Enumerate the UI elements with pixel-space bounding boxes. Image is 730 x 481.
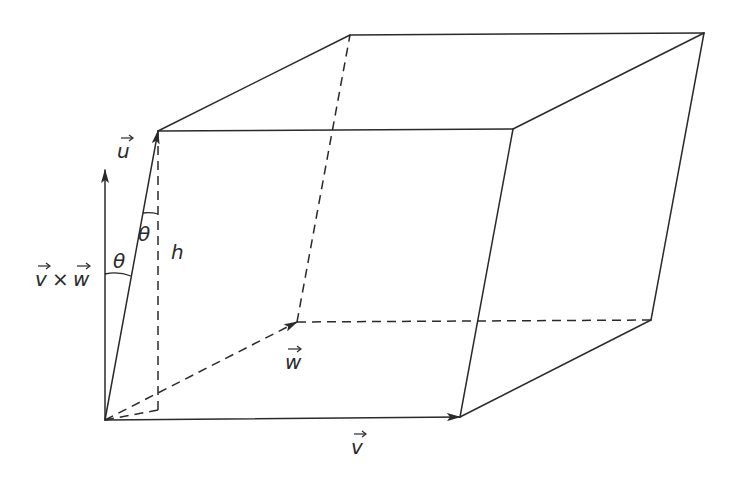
edge-w-vector [105, 322, 297, 420]
edge-top-right [513, 33, 704, 129]
edge-v-vector [105, 417, 460, 420]
label-theta-top: θ [138, 222, 150, 246]
label-cross-w: w [73, 267, 90, 291]
label-h: h [171, 240, 184, 264]
theta-arc-top [143, 213, 158, 214]
edge-back-left [297, 35, 350, 322]
edge-front-right [460, 129, 513, 417]
theta-arc-bottom [105, 273, 131, 276]
edge-bottom-back [297, 320, 651, 322]
label-u: u [117, 139, 130, 163]
edge-top-back [350, 33, 704, 35]
height-foot-line [105, 410, 158, 420]
edge-top-front [158, 129, 513, 131]
edge-u-vector [105, 131, 158, 420]
label-theta-bottom: θ [113, 249, 125, 273]
edge-top-left [158, 35, 350, 131]
labels: u θ h θ v × w w v [35, 135, 366, 459]
label-cross-v: v [35, 267, 48, 291]
label-cross-times: × [52, 267, 69, 291]
edge-bottom-right [460, 320, 651, 417]
solid-edges [105, 33, 704, 420]
diagram-canvas: u θ h θ v × w w v [0, 0, 730, 481]
label-v: v [351, 435, 364, 459]
edge-back-right [651, 33, 704, 320]
label-w: w [285, 350, 302, 374]
